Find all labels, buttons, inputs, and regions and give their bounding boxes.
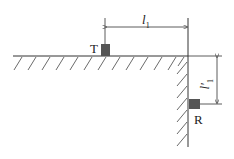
ground-hatching <box>14 57 184 70</box>
dim-l1-prime-label: l′1 <box>198 79 215 89</box>
dim-l1-label: l1 <box>142 13 150 30</box>
wall-hatching <box>177 62 187 146</box>
receiver-label: R <box>194 113 203 126</box>
transmitter-block <box>101 44 110 56</box>
transmitter-label: T <box>90 42 98 55</box>
receiver-block <box>189 99 200 109</box>
